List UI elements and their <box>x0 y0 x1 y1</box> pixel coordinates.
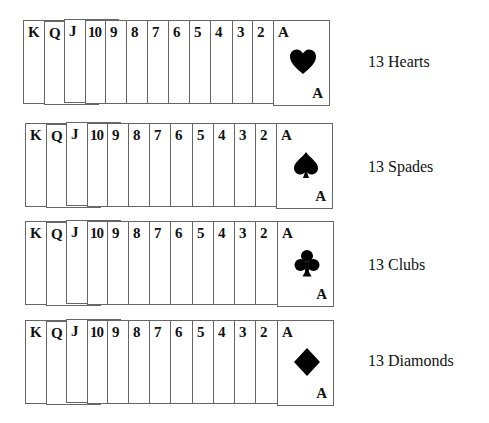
rank-label: 4 <box>218 128 226 143</box>
suit-label-clubs: 13 Clubs <box>368 256 425 274</box>
card-ace: A A <box>276 123 333 209</box>
rank-label: 2 <box>257 25 265 40</box>
spade-icon <box>291 150 321 180</box>
rank-label: 9 <box>112 128 120 143</box>
rank-label: Q <box>51 326 63 341</box>
rank-label: 3 <box>239 325 247 340</box>
rank-label: 8 <box>133 128 141 143</box>
rank-label: 10 <box>88 25 101 40</box>
rank-label: 2 <box>260 128 268 143</box>
diamond-icon <box>292 347 322 377</box>
rank-label: A <box>281 128 292 143</box>
spades-row: K Q J 10 9 8 7 6 5 4 3 2 A A 13 Spades <box>0 123 489 213</box>
rank-label: 7 <box>154 325 162 340</box>
suit-label-diamonds: 13 Diamonds <box>368 352 454 370</box>
card-ace: A A <box>273 20 330 106</box>
rank-label: 5 <box>197 226 205 241</box>
rank-label: J <box>71 127 79 142</box>
rank-label: A <box>282 226 293 241</box>
rank-label: 5 <box>197 325 205 340</box>
rank-label: A <box>278 25 289 40</box>
rank-label: 10 <box>90 226 103 241</box>
club-icon <box>292 248 322 278</box>
suit-label-spades: 13 Spades <box>368 158 433 176</box>
rank-corner-label: A <box>312 86 323 101</box>
rank-label: 10 <box>90 325 103 340</box>
rank-label: 9 <box>112 226 120 241</box>
rank-label: 9 <box>110 25 118 40</box>
rank-label: Q <box>51 129 63 144</box>
rank-corner-label: A <box>315 189 326 204</box>
rank-corner-label: A <box>316 287 327 302</box>
suit-label-hearts: 13 Hearts <box>368 53 430 71</box>
rank-label: K <box>30 325 42 340</box>
rank-label: 2 <box>260 226 268 241</box>
rank-label: K <box>30 128 42 143</box>
rank-label: 3 <box>239 128 247 143</box>
rank-label: J <box>71 324 79 339</box>
rank-label: 8 <box>131 25 139 40</box>
rank-label: Q <box>49 26 61 41</box>
rank-label: 5 <box>194 25 202 40</box>
diamonds-row: K Q J 10 9 8 7 6 5 4 3 2 A A 13 Diamonds <box>0 320 489 410</box>
rank-label: K <box>28 25 40 40</box>
rank-label: 10 <box>90 128 103 143</box>
rank-label: 6 <box>175 325 183 340</box>
rank-label: 7 <box>154 128 162 143</box>
rank-label: J <box>71 225 79 240</box>
card-ace: A A <box>277 320 334 406</box>
clubs-row: K Q J 10 9 8 7 6 5 4 3 2 A A 13 Clubs <box>0 221 489 311</box>
rank-corner-label: A <box>316 386 327 401</box>
rank-label: 6 <box>173 25 181 40</box>
rank-label: 6 <box>175 128 183 143</box>
rank-label: J <box>69 24 77 39</box>
rank-label: Q <box>51 227 63 242</box>
heart-icon <box>288 47 318 77</box>
rank-label: 4 <box>218 226 226 241</box>
rank-label: 6 <box>175 226 183 241</box>
rank-label: 3 <box>239 226 247 241</box>
rank-label: A <box>282 325 293 340</box>
rank-label: 3 <box>237 25 245 40</box>
rank-label: K <box>30 226 42 241</box>
rank-label: 7 <box>154 226 162 241</box>
rank-label: 8 <box>133 325 141 340</box>
hearts-row: K Q J 10 9 8 7 6 5 4 3 2 A A 13 Hearts <box>0 20 489 110</box>
rank-label: 8 <box>133 226 141 241</box>
rank-label: 4 <box>218 325 226 340</box>
rank-label: 5 <box>197 128 205 143</box>
card-ace: A A <box>277 221 334 307</box>
rank-label: 2 <box>260 325 268 340</box>
rank-label: 9 <box>112 325 120 340</box>
rank-label: 4 <box>215 25 223 40</box>
rank-label: 7 <box>152 25 160 40</box>
